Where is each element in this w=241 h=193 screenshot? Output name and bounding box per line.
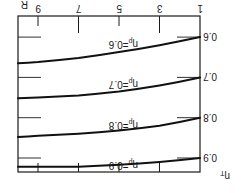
x-tick-label: 1 <box>197 3 203 14</box>
curve-group <box>18 37 200 167</box>
y-tick-label: 0.6 <box>203 31 217 42</box>
x-tick-label: 9 <box>35 3 41 14</box>
y-axis-label: ηT <box>219 170 230 182</box>
y-tick-label: 0.9 <box>203 152 217 163</box>
curve-annotation: ηp=0.9 <box>108 158 138 171</box>
x-tick-label: 7 <box>76 3 82 14</box>
y-tick-label: 0.8 <box>203 112 217 123</box>
curve-annotation: ηp=0.6 <box>108 37 138 50</box>
curve-annotation: ηp=0.7 <box>108 77 138 90</box>
rotated-chart: 13579 0.60.70.80.9 ηp=0.6ηp=0.7ηp=0.8ηp=… <box>0 0 241 193</box>
efficiency-chart: 13579 0.60.70.80.9 ηp=0.6ηp=0.7ηp=0.8ηp=… <box>0 0 241 193</box>
x-axis-label: R <box>21 0 28 10</box>
y-tick-label: 0.7 <box>203 71 217 82</box>
curve-annotation: ηp=0.8 <box>108 118 138 131</box>
annotation-group: ηp=0.6ηp=0.7ηp=0.8ηp=0.9 <box>108 37 138 171</box>
x-tick-label: 3 <box>157 3 163 14</box>
x-tick-label: 5 <box>116 3 122 14</box>
